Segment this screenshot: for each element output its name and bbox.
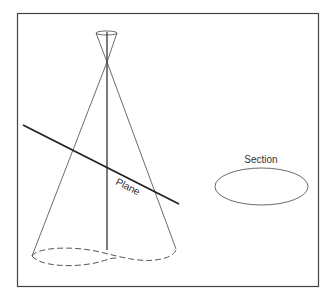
upper-nappe-right-edge <box>107 33 117 62</box>
lower-nappe-right-edge <box>107 62 176 249</box>
section-ellipse <box>215 168 308 205</box>
base-ellipse-back <box>32 248 176 260</box>
double-cone <box>32 31 176 266</box>
frame-border <box>18 14 319 287</box>
cutting-plane-line <box>23 125 179 204</box>
upper-nappe-left-edge <box>96 33 107 62</box>
base-ellipse-front <box>32 256 116 266</box>
lower-nappe-left-edge <box>32 62 107 256</box>
conic-section-diagram: Plane Section <box>0 0 335 299</box>
section-label: Section <box>244 154 277 165</box>
